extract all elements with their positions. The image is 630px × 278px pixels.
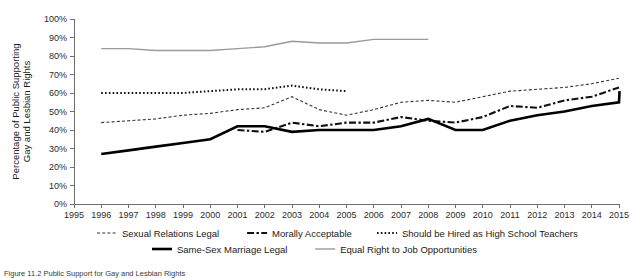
y-axis-ticks: 0%10%20%30%40%50%60%70%80%90%100% [44,14,74,209]
x-tick-label: 1997 [118,210,138,220]
chart-legend: Sexual Relations LegalMorally Acceptable… [97,228,578,255]
legend-item-label[interactable]: Should be Hired as High School Teachers [402,228,578,239]
y-tick-label: 70% [49,70,67,80]
series-line [238,87,620,131]
x-tick-label: 2008 [418,210,438,220]
x-tick-label: 1995 [64,210,84,220]
x-tick-label: 2000 [200,210,220,220]
legend-item-label[interactable]: Same-Sex Marriage Legal [177,244,287,255]
x-tick-label: 2007 [391,210,411,220]
y-tick-label: 90% [49,33,67,43]
y-tick-label: 80% [49,51,67,61]
series-line [101,86,346,93]
y-axis-title-line: Gay and Lesbian Rights [21,61,32,163]
x-tick-label: 2012 [527,210,547,220]
y-tick-label: 40% [49,125,67,135]
y-axis-title-line: Percentage of Public Supporting [10,43,21,179]
y-tick-label: 20% [49,162,67,172]
figure-container: Percentage of Public SupportingGay and L… [0,0,630,278]
data-series-group [101,39,619,154]
y-tick-label: 100% [44,14,67,24]
x-tick-label: 2010 [473,210,493,220]
x-axis-ticks: 1995199619971998199920002001200220032004… [64,204,629,220]
x-tick-label: 2002 [255,210,275,220]
x-tick-label: 2014 [582,210,602,220]
line-chart: Percentage of Public SupportingGay and L… [0,0,630,278]
x-tick-label: 2011 [500,210,519,220]
x-tick-label: 2006 [364,210,384,220]
x-tick-label: 2009 [445,210,465,220]
figure-caption-text: Figure 11.2 Public Support for Gay and L… [4,269,185,278]
x-tick-label: 2005 [336,210,356,220]
x-tick-label: 2004 [309,210,329,220]
y-tick-label: 10% [49,181,67,191]
x-tick-label: 2003 [282,210,302,220]
x-tick-label: 2015 [609,210,629,220]
y-tick-label: 30% [49,144,67,154]
x-tick-label: 1998 [146,210,166,220]
axis-lines [74,19,619,204]
legend-item-label[interactable]: Equal Right to Job Opportunities [340,244,477,255]
x-tick-label: 2001 [227,210,247,220]
x-tick-label: 1999 [173,210,193,220]
figure-caption: Figure 11.2 Public Support for Gay and L… [4,269,185,278]
legend-item-label[interactable]: Morally Acceptable [272,228,352,239]
y-axis-title: Percentage of Public SupportingGay and L… [10,43,32,179]
y-tick-label: 50% [49,107,67,117]
series-line [101,39,428,50]
x-tick-label: 1996 [91,210,111,220]
y-tick-label: 0% [54,199,67,209]
x-tick-label: 2013 [554,210,574,220]
y-tick-label: 60% [49,88,67,98]
legend-item-label[interactable]: Sexual Relations Legal [122,228,219,239]
